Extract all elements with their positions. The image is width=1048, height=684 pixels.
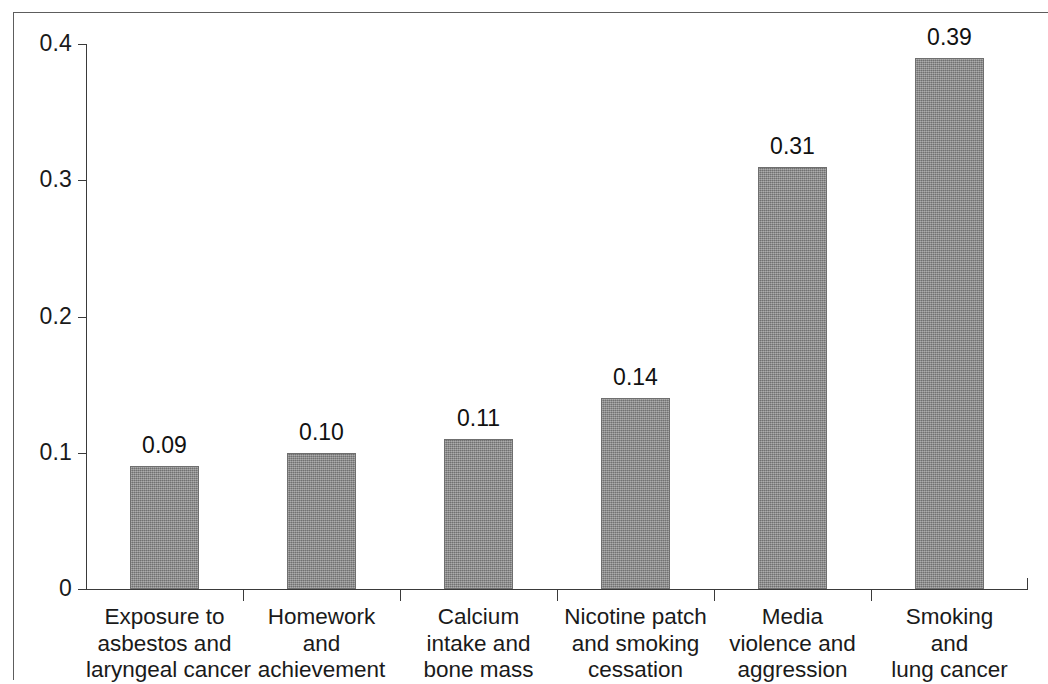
bar bbox=[758, 167, 827, 589]
x-axis-category-label-line: and bbox=[871, 631, 1028, 658]
x-axis-category-label-line: laryngeal cancer bbox=[86, 657, 243, 684]
x-axis-category-label-line: cessation bbox=[557, 657, 714, 684]
y-axis-tick-label: 0.2 bbox=[0, 305, 72, 328]
x-axis-category-label-line: aggression bbox=[714, 657, 871, 684]
x-axis-category-label: Calciumintake andbone mass bbox=[400, 604, 557, 684]
bar bbox=[444, 439, 513, 589]
x-axis-tick-mark bbox=[871, 590, 872, 601]
bar bbox=[287, 453, 356, 589]
x-axis-category-label-line: achievement bbox=[243, 657, 400, 684]
x-axis-category-label-line: Media bbox=[714, 604, 871, 631]
y-axis-tick-label: 0.4 bbox=[0, 32, 72, 55]
x-axis-category-label-line: Smoking bbox=[871, 604, 1028, 631]
x-axis-category-label-line: Calcium bbox=[400, 604, 557, 631]
x-axis-category-label-line: violence and bbox=[714, 631, 871, 658]
x-axis-category-label-line: intake and bbox=[400, 631, 557, 658]
bar bbox=[130, 466, 199, 589]
x-axis-category-label-line: and smoking bbox=[557, 631, 714, 658]
y-axis-tick-mark bbox=[78, 453, 86, 454]
x-axis-tick-mark bbox=[714, 590, 715, 601]
x-axis-end-cap bbox=[1027, 578, 1028, 589]
x-axis-category-label-line: Nicotine patch bbox=[557, 604, 714, 631]
y-axis-tick-label: 0.3 bbox=[0, 168, 72, 191]
bar-value-label: 0.31 bbox=[733, 135, 853, 158]
x-axis-category-label-line: and bbox=[243, 631, 400, 658]
y-axis-tick-mark bbox=[78, 589, 86, 590]
x-axis-category-label: Mediaviolence andaggression bbox=[714, 604, 871, 684]
bar bbox=[601, 398, 670, 589]
y-axis-tick-mark bbox=[78, 44, 86, 45]
y-axis-tick-mark bbox=[78, 317, 86, 318]
bar-value-label: 0.39 bbox=[890, 26, 1010, 49]
bar-value-label: 0.09 bbox=[105, 434, 225, 457]
bar-value-label: 0.14 bbox=[576, 366, 696, 389]
x-axis-tick-mark bbox=[400, 590, 401, 601]
y-axis-tick-mark bbox=[78, 180, 86, 181]
bar-value-label: 0.11 bbox=[419, 407, 539, 430]
x-axis-category-label: Exposure toasbestos andlaryngeal cancer bbox=[86, 604, 243, 684]
x-axis-tick-mark bbox=[557, 590, 558, 601]
bar-value-label: 0.10 bbox=[262, 421, 382, 444]
bar bbox=[915, 58, 984, 589]
x-axis-category-label: Nicotine patchand smokingcessation bbox=[557, 604, 714, 684]
y-axis-tick-label: 0 bbox=[0, 577, 72, 600]
x-axis-category-label-line: Exposure to bbox=[86, 604, 243, 631]
x-axis-category-label: Smokingandlung cancer bbox=[871, 604, 1028, 684]
y-axis-line bbox=[86, 44, 87, 590]
x-axis-category-label-line: Homework bbox=[243, 604, 400, 631]
x-axis-category-label: Homeworkandachievement bbox=[243, 604, 400, 684]
x-axis-category-label-line: asbestos and bbox=[86, 631, 243, 658]
x-axis-category-label-line: bone mass bbox=[400, 657, 557, 684]
x-axis-tick-mark bbox=[243, 590, 244, 601]
x-axis-category-label-line: lung cancer bbox=[871, 657, 1028, 684]
y-axis-tick-label: 0.1 bbox=[0, 441, 72, 464]
